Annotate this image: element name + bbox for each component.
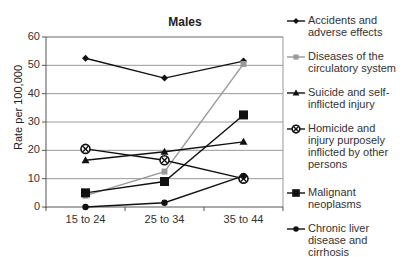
x-tick-label: 25 to 34	[135, 213, 195, 225]
diamond-marker-icon	[285, 15, 307, 27]
legend-label: Malignantneoplasms	[308, 186, 361, 210]
legend-label-line: Chronic liver	[308, 222, 369, 234]
y-tick-label: 30	[18, 115, 40, 127]
legend-label: Suicide and self-inflicted injury	[308, 86, 389, 110]
y-tick-label: 60	[18, 30, 40, 42]
legend-label-line: disease and	[308, 234, 369, 246]
series-lines	[81, 55, 248, 210]
legend-item: Homicide andinjury purposelyinflicted by…	[285, 122, 414, 170]
y-tick-label: 0	[18, 200, 40, 212]
square-marker-icon	[285, 187, 307, 199]
triangle-marker-icon	[285, 87, 307, 99]
square-small-marker-icon	[285, 51, 307, 63]
legend-label-line: inflicted by other	[308, 146, 388, 158]
legend-label: Homicide andinjury purposelyinflicted by…	[308, 122, 388, 170]
legend-label-line: Accidents and	[308, 14, 382, 26]
chart-title: Males	[140, 15, 230, 29]
legend-label-line: inflicted injury	[308, 98, 389, 110]
x-tick-label: 35 to 44	[214, 213, 274, 225]
legend-label-line: Diseases of the	[308, 50, 396, 62]
y-tick-label: 10	[18, 172, 40, 184]
series-accidents-and-adverse-effects	[82, 55, 247, 82]
y-tick-label: 20	[18, 143, 40, 155]
y-tick-label: 40	[18, 87, 40, 99]
legend-label-line: Suicide and self-	[308, 86, 389, 98]
legend-item: Diseases of thecirculatory system	[285, 50, 414, 74]
legend-label: Diseases of thecirculatory system	[308, 50, 396, 74]
legend-label: Accidents andadverse effects	[308, 14, 382, 38]
legend-label-line: adverse effects	[308, 26, 382, 38]
circle-x-marker-icon	[285, 123, 307, 135]
circle-marker-icon	[285, 223, 307, 235]
legend-item: Malignantneoplasms	[285, 186, 414, 210]
legend-item: Accidents andadverse effects	[285, 14, 414, 38]
legend-label-line: Malignant	[308, 186, 361, 198]
legend-item: Suicide and self-inflicted injury	[285, 86, 414, 110]
legend-label-line: circulatory system	[308, 62, 396, 74]
legend-label-line: persons	[308, 158, 388, 170]
legend-label-line: neoplasms	[308, 198, 361, 210]
cropped-caption-text	[0, 252, 414, 257]
legend-label-line: Homicide and	[308, 122, 388, 134]
x-tick-label: 15 to 24	[56, 213, 116, 225]
legend-label-line: injury purposely	[308, 134, 388, 146]
y-tick-label: 50	[18, 58, 40, 70]
